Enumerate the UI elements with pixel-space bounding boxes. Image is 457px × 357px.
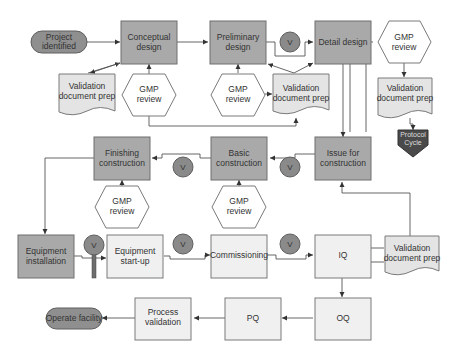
node-label: Process [148,307,179,317]
node-label: PQ [247,313,260,323]
verification-circle-startup[interactable]: V [173,234,193,254]
node-label: Validation [387,83,424,93]
terminator-operate-facility[interactable]: Operate facility [46,308,103,329]
node-label: Basic [229,148,251,158]
node-label: Validation [283,83,320,93]
verification-pin-equipment[interactable]: V [84,235,104,278]
node-label: Validation [394,243,431,253]
process-iq[interactable]: IQ [315,235,371,278]
node-label: Commissioning [210,250,268,260]
node-label: identified [42,41,76,51]
node-label: construction [99,158,145,168]
document-validation-prep-2[interactable]: Validation document prep [273,74,330,114]
node-label: start-up [121,256,150,266]
node-label: IQ [339,250,348,260]
node-label: Protocol [400,131,426,138]
verification-circle-finishing[interactable]: V [173,157,193,177]
node-label: GMP [394,32,414,42]
node-label: document prep [59,91,116,101]
node-label: design [136,42,161,52]
verification-label: V [287,240,293,249]
node-label: Validation [69,81,106,91]
process-flow-diagram: Project identified Conceptual design Pre… [0,0,457,357]
node-label: installation [26,256,66,266]
node-label: GMP [229,196,249,206]
verification-label: V [180,240,186,249]
node-label: review [226,94,251,104]
node-label: document prep [377,93,434,103]
process-finishing-construction[interactable]: Finishing construction [94,137,150,180]
node-label: review [392,42,417,52]
verification-label: V [287,163,293,172]
node-label: design [225,42,250,52]
node-label: construction [216,158,262,168]
verification-label: V [287,38,293,47]
node-label: GMP [228,84,248,94]
node-label: Issue for [327,148,360,158]
process-equipment-installation[interactable]: Equipment installation [18,235,74,278]
gmp-review-preliminary[interactable]: GMP review [211,74,265,116]
document-validation-prep-1[interactable]: Validation document prep [59,74,116,115]
node-label: Equipment [26,246,67,256]
process-pq[interactable]: PQ [225,298,281,340]
node-label: Conceptual [127,32,170,42]
node-label: Detail design [318,37,367,47]
gmp-review-finishing[interactable]: GMP review [95,186,149,228]
verification-label: V [91,241,97,250]
verification-circle-commissioning[interactable]: V [280,234,300,254]
process-process-validation[interactable]: Process validation [135,298,191,340]
verification-circle-basic[interactable]: V [280,157,300,177]
process-basic-construction[interactable]: Basic construction [211,137,267,180]
node-label: validation [145,317,181,327]
verification-circle-design[interactable]: V [280,32,300,52]
process-conceptual-design[interactable]: Conceptual design [121,21,177,64]
process-commissioning[interactable]: Commissioning [210,235,268,278]
process-equipment-startup[interactable]: Equipment start-up [107,235,163,278]
protocol-cycle[interactable]: Protocol Cycle [398,130,428,157]
document-validation-prep-4[interactable]: Validation document prep [384,236,441,275]
document-validation-prep-3[interactable]: Validation document prep [377,78,434,118]
node-label: Equipment [115,246,156,256]
terminator-project-identified[interactable]: Project identified [31,31,87,53]
node-label: GMP [112,196,132,206]
node-label: Finishing [105,148,139,158]
node-label: Operate facility [46,313,103,323]
node-label: OQ [336,313,350,323]
node-label: construction [320,158,366,168]
node-label: Preliminary [217,32,260,42]
verification-label: V [180,163,186,172]
process-issue-for-construction[interactable]: Issue for construction [315,137,371,180]
gmp-review-conceptual[interactable]: GMP review [122,74,176,116]
node-label: document prep [384,253,441,263]
node-label: review [137,94,162,104]
node-label: review [227,206,252,216]
node-label: Cycle [404,139,422,147]
gmp-review-detail[interactable]: GMP review [378,21,431,63]
node-label: GMP [139,84,159,94]
process-preliminary-design[interactable]: Preliminary design [210,21,266,64]
process-oq[interactable]: OQ [315,298,371,340]
node-label: document prep [273,93,330,103]
process-detail-design[interactable]: Detail design [315,21,371,64]
node-label: review [110,206,135,216]
gmp-review-basic[interactable]: GMP review [212,186,266,228]
